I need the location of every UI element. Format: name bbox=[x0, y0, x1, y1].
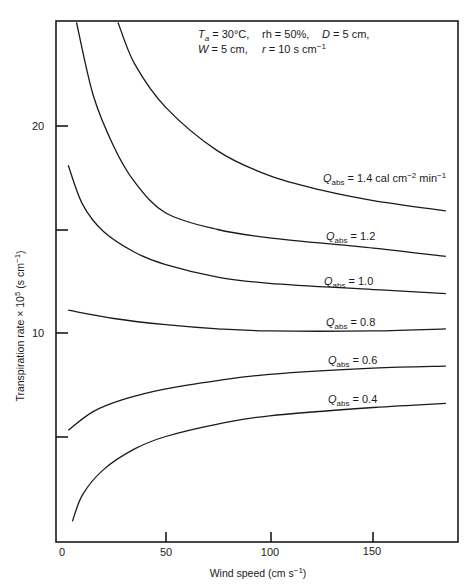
curves bbox=[68, 23, 446, 522]
chart: 10 20 0 50 100 150 Wind speed (cm s−1) T… bbox=[0, 0, 471, 588]
x-axis-label: Wind speed (cm s−1) bbox=[210, 566, 307, 579]
label-q-1.4: Qabs = 1.4 cal cm−2 min−1 bbox=[323, 171, 447, 187]
y-axis-ticks bbox=[56, 126, 68, 437]
svg-text:W = 5 cm,: W = 5 cm, bbox=[198, 43, 248, 55]
label-q-1.2: Qabs = 1.2 bbox=[326, 230, 375, 245]
x-tick-150: 150 bbox=[363, 545, 381, 557]
x-axis-ticks bbox=[166, 532, 373, 542]
curve-q-1 bbox=[68, 165, 446, 293]
svg-text:D = 5 cm,: D = 5 cm, bbox=[322, 28, 369, 40]
x-tick-100: 100 bbox=[261, 546, 279, 558]
y-tick-20: 20 bbox=[32, 120, 44, 132]
y-axis-label: Transpiration rate × 105 (s cm−1) bbox=[13, 250, 26, 401]
curve-q-0.4 bbox=[72, 403, 446, 521]
label-q-0.6: Qabs = 0.6 bbox=[328, 354, 377, 369]
svg-text:rh = 50%,: rh = 50%, bbox=[262, 28, 309, 40]
x-tick-0: 0 bbox=[59, 546, 65, 558]
curve-q-0.6 bbox=[68, 366, 446, 430]
plot-frame bbox=[56, 21, 458, 542]
curve-q-0.8 bbox=[68, 310, 446, 331]
conditions-annotation: Ta = 30°C, rh = 50%, D = 5 cm, W = 5 cm,… bbox=[198, 28, 369, 55]
svg-text:r = 10 s cm−1: r = 10 s cm−1 bbox=[262, 42, 326, 55]
x-tick-50: 50 bbox=[160, 546, 172, 558]
label-q-0.4: Qabs = 0.4 bbox=[328, 393, 377, 408]
svg-text:Ta = 30°C,: Ta = 30°C, bbox=[198, 28, 249, 43]
label-q-0.8: Qabs = 0.8 bbox=[326, 316, 375, 331]
y-tick-10: 10 bbox=[32, 327, 44, 339]
